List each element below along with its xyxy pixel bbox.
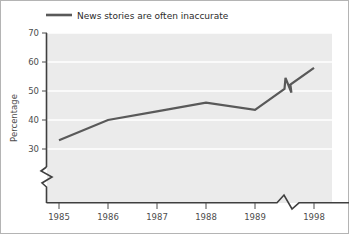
x-tick-label: 1986: [97, 212, 119, 222]
x-tick-labels: 1985 1986 1987 1988 1989 1998: [48, 212, 325, 222]
x-tick-label: 1998: [303, 212, 325, 222]
y-tick-label: 50: [28, 86, 39, 96]
y-tick-label: 70: [28, 28, 39, 38]
x-tick-label: 1987: [146, 212, 168, 222]
y-tick-labels: 70 60 50 40 30: [28, 28, 39, 154]
legend-label: News stories are often inaccurate: [77, 11, 229, 21]
chart-figure: 70 60 50 40 30 Percentage 1985 1986 1987…: [0, 0, 349, 234]
x-tick-label: 1988: [195, 212, 217, 222]
y-tick-label: 40: [28, 115, 39, 125]
plot-background: [47, 33, 332, 203]
y-tick-label: 30: [28, 144, 39, 154]
x-tick-label: 1985: [48, 212, 70, 222]
x-tick-label: 1989: [244, 212, 266, 222]
y-tick-label: 60: [28, 57, 39, 67]
y-axis-title: Percentage: [9, 94, 19, 142]
legend: News stories are often inaccurate: [46, 11, 229, 21]
x-tick-marks: [59, 203, 314, 209]
line-chart: 70 60 50 40 30 Percentage 1985 1986 1987…: [1, 1, 349, 234]
